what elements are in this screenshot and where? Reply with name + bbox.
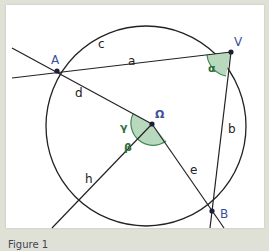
circle-geometry-diagram: A V B Ω a c d b e h α γ β xyxy=(0,0,269,251)
point-v xyxy=(228,49,233,54)
label-segment-h: h xyxy=(85,172,93,186)
label-segment-d: d xyxy=(75,86,83,100)
point-b xyxy=(209,208,214,213)
label-a: A xyxy=(51,53,60,67)
point-a xyxy=(54,68,59,73)
label-b: B xyxy=(220,207,228,221)
label-angle-alpha: α xyxy=(208,62,216,75)
label-v: V xyxy=(234,35,243,49)
label-angle-gamma: γ xyxy=(120,121,128,134)
line-h xyxy=(52,124,152,228)
label-segment-b: b xyxy=(228,122,236,136)
figure-caption: Figure 1 xyxy=(8,240,48,250)
point-omega xyxy=(149,121,154,126)
label-omega: Ω xyxy=(155,108,165,121)
label-angle-beta: β xyxy=(124,141,132,154)
label-segment-e: e xyxy=(190,163,197,177)
line-b xyxy=(210,52,231,228)
label-segment-c: c xyxy=(98,37,105,51)
label-segment-a: a xyxy=(128,54,135,68)
line-a xyxy=(12,52,231,78)
